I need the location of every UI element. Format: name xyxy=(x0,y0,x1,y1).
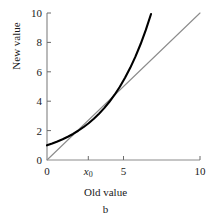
y-tick-label: 8 xyxy=(37,37,43,48)
series-transform-curve xyxy=(47,14,151,145)
x-tick-label: x0 xyxy=(84,166,93,179)
y-tick-label: 2 xyxy=(37,125,43,136)
y-axis-title: New value xyxy=(10,6,22,86)
y-tick-label: 6 xyxy=(37,66,43,77)
chart-figure: 0x05100246810 New value Old value b xyxy=(0,0,211,223)
y-tick-label: 10 xyxy=(31,8,42,19)
x-tick-label: 10 xyxy=(195,166,206,177)
y-tick-label: 4 xyxy=(37,96,43,107)
x-tick-label: 0 xyxy=(44,166,50,177)
y-tick-label: 0 xyxy=(37,155,43,166)
x-axis-title: Old value xyxy=(0,186,211,198)
data-series xyxy=(47,13,200,160)
x-tick-label: 5 xyxy=(121,166,127,177)
panel-label: b xyxy=(0,203,211,215)
series-identity-line xyxy=(47,13,200,160)
